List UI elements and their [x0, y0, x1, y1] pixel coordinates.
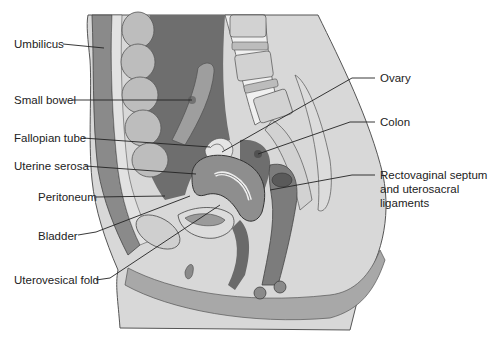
label-umbilicus: Umbilicus: [14, 37, 64, 51]
label-peritoneum: Peritoneum: [38, 190, 97, 204]
label-small-bowel: Small bowel: [14, 93, 76, 107]
label-ovary: Ovary: [380, 71, 411, 85]
label-colon: Colon: [380, 115, 410, 129]
label-fallopian-tube: Fallopian tube: [14, 131, 86, 145]
label-bladder: Bladder: [38, 229, 78, 243]
label-rectovaginal-septum: Rectovaginal septum and uterosacral liga…: [380, 168, 492, 210]
label-uterine-serosa: Uterine serosa: [14, 159, 89, 173]
label-uterovesical-fold: Uterovesical fold: [14, 273, 99, 287]
